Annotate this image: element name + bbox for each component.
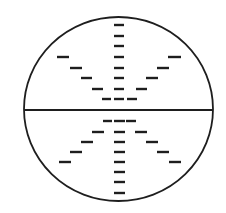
- lower-left-dash-diagonal: [59, 121, 112, 162]
- circle-dash-diagram: [0, 0, 226, 213]
- upper-center-dash-column: [114, 25, 124, 99]
- lower-right-dash-diagonal: [126, 121, 181, 162]
- lower-center-dash-column: [114, 121, 125, 193]
- upper-right-dash-diagonal: [127, 57, 181, 99]
- upper-left-dash-diagonal: [57, 57, 111, 99]
